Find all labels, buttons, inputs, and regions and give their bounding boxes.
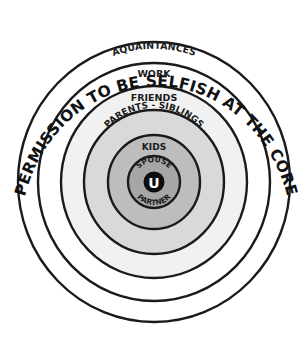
label-work: WORK bbox=[137, 68, 171, 79]
core-label: U bbox=[148, 175, 159, 191]
label-kids: KIDS bbox=[142, 142, 166, 152]
concentric-circles-diagram: U PERMISSION TO BE SELFISH AT THE CORE A… bbox=[0, 0, 306, 347]
core-you: U bbox=[144, 172, 165, 193]
